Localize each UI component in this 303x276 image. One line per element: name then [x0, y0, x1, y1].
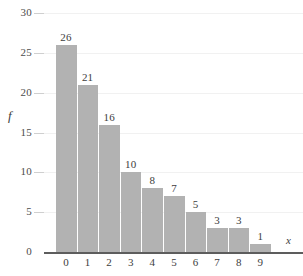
bar-7 — [207, 228, 228, 252]
ytick-label-25: 25 — [6, 46, 32, 58]
gridline-25 — [44, 53, 303, 54]
ytick-label-20: 20 — [6, 86, 32, 98]
ytick-label-10: 10 — [6, 165, 32, 177]
ytick-label-5: 5 — [6, 205, 32, 217]
ytick-stub-30 — [34, 13, 44, 14]
ytick-label-0: 0 — [6, 245, 32, 257]
bar-2 — [99, 125, 120, 252]
bar-chart: 30 25 20 15 10 5 0 f x 26 21 16 10 8 7 5… — [0, 0, 303, 276]
ytick-stub-25 — [34, 53, 44, 54]
bar-value-8: 3 — [225, 214, 253, 226]
bar-value-3: 10 — [117, 158, 145, 170]
bar-value-0: 26 — [52, 31, 80, 43]
bar-4 — [142, 188, 163, 252]
bar-value-9: 1 — [246, 230, 274, 242]
bar-value-6: 5 — [182, 198, 210, 210]
bar-9 — [250, 244, 271, 252]
ytick-stub-5 — [34, 212, 44, 213]
ytick-stub-15 — [34, 133, 44, 134]
x-axis-line — [44, 252, 303, 254]
bar-value-1: 21 — [74, 71, 102, 83]
y-axis-title: f — [8, 108, 12, 124]
bar-value-5: 7 — [160, 182, 188, 194]
ytick-label-30: 30 — [6, 6, 32, 18]
gridline-30 — [44, 13, 303, 14]
ytick-stub-10 — [34, 172, 44, 173]
bar-value-2: 16 — [95, 111, 123, 123]
ytick-label-15: 15 — [6, 126, 32, 138]
x-axis-title: x — [286, 234, 291, 246]
xtick-label-9: 9 — [246, 256, 274, 268]
ytick-stub-20 — [34, 93, 44, 94]
